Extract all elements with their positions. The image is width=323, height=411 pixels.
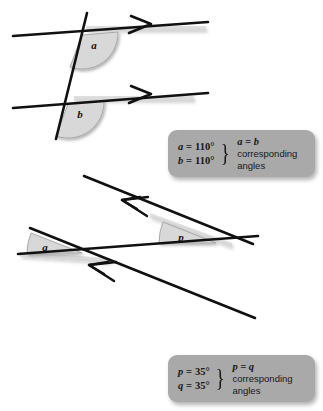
legend-1-value-2: = 110° xyxy=(183,155,214,166)
upper-figure-group: a b xyxy=(13,13,208,139)
angle-label-q: q xyxy=(42,241,48,253)
legend-angles-a-b: a = 110° b = 110° } a = b corresponding … xyxy=(168,130,315,177)
diagram-canvas: a b p q xyxy=(0,0,323,411)
legend-1-equation-row: b = 110° xyxy=(178,154,215,167)
legend-2-note-line-1: corresponding xyxy=(232,373,292,384)
angle-label-p: p xyxy=(177,231,184,243)
legend-2-brace: } xyxy=(215,368,224,389)
legend-2-note-line-2: angles xyxy=(232,385,292,396)
angle-label-b: b xyxy=(77,108,83,120)
legend-2-equation-row: q = 35° xyxy=(178,379,210,392)
legend-1-note-line-1: corresponding xyxy=(237,148,297,159)
geometry-figure: a b p q xyxy=(0,0,323,411)
legend-2-note: p = q corresponding angles xyxy=(232,361,292,396)
legend-1-equations: a = 110° b = 110° xyxy=(178,140,215,166)
legend-angles-p-q: p = 35° q = 35° } p = q corresponding an… xyxy=(168,355,315,402)
legend-1-brace: } xyxy=(220,143,229,164)
angle-label-a: a xyxy=(91,39,97,51)
legend-1-note: a = b corresponding angles xyxy=(237,136,297,171)
legend-1-relation: a = b xyxy=(237,136,297,148)
legend-2-equations: p = 35° q = 35° xyxy=(178,365,210,391)
legend-2-value-1: = 35° xyxy=(183,366,210,377)
lower-figure-group: p q xyxy=(18,176,258,318)
legend-2-relation: p = q xyxy=(232,361,292,373)
legend-1-note-line-2: angles xyxy=(237,160,297,171)
legend-2-value-2: = 35° xyxy=(183,380,210,391)
legend-2-equation-row: p = 35° xyxy=(178,365,210,378)
legend-1-value-1: = 110° xyxy=(183,141,214,152)
legend-1-equation-row: a = 110° xyxy=(178,140,215,153)
